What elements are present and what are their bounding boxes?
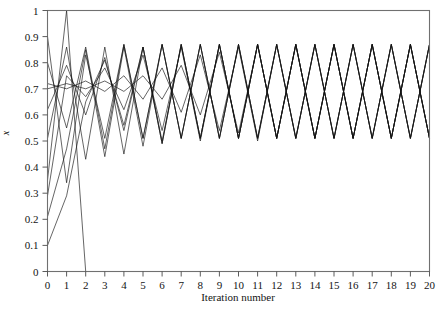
x-tick-label: 5 [140,279,146,291]
x-tick-label: 4 [121,279,127,291]
y-tick-label: 0.7 [25,83,39,95]
x-tick-label: 12 [271,279,282,291]
chart-figure: 01234567891011121314151617181920 00.10.2… [0,0,439,316]
y-axis-title: x [0,130,11,136]
y-tick-label: 0.5 [25,135,39,147]
y-tick-label: 0.9 [25,31,39,43]
y-tick-label: 0.1 [25,239,39,251]
line-chart-plot: 01234567891011121314151617181920 00.10.2… [0,0,439,316]
x-tick-label: 9 [217,279,223,291]
x-tick-label: 16 [348,279,360,291]
x-tick-label: 15 [329,279,341,291]
x-tick-label: 10 [233,279,245,291]
x-tick-label: 20 [424,279,436,291]
x-tick-label: 8 [198,279,204,291]
x-tick-label: 18 [386,279,398,291]
y-tick-label: 0.2 [25,213,39,225]
x-tick-label: 6 [159,279,165,291]
x-tick-label: 7 [178,279,184,291]
x-tick-label-layer: 01234567891011121314151617181920 [45,279,436,291]
y-tick-label: 0.8 [25,57,39,69]
x-tick-label: 2 [83,279,89,291]
chart-background [0,0,439,316]
x-tick-label: 13 [290,279,302,291]
x-tick-layer [48,272,430,277]
x-tick-label: 11 [252,279,263,291]
y-tick-label: 0 [33,266,39,278]
y-tick-label: 1 [33,5,39,17]
x-tick-label: 19 [405,279,417,291]
y-tick-label: 0.6 [25,109,39,121]
y-tick-label: 0.4 [25,161,39,173]
y-tick-label: 0.3 [25,187,39,199]
x-tick-label: 3 [102,279,108,291]
x-tick-label: 1 [64,279,70,291]
x-tick-label: 17 [367,279,379,291]
x-tick-label: 0 [45,279,51,291]
x-tick-label: 14 [309,279,321,291]
x-axis-title: Iteration number [201,291,275,303]
